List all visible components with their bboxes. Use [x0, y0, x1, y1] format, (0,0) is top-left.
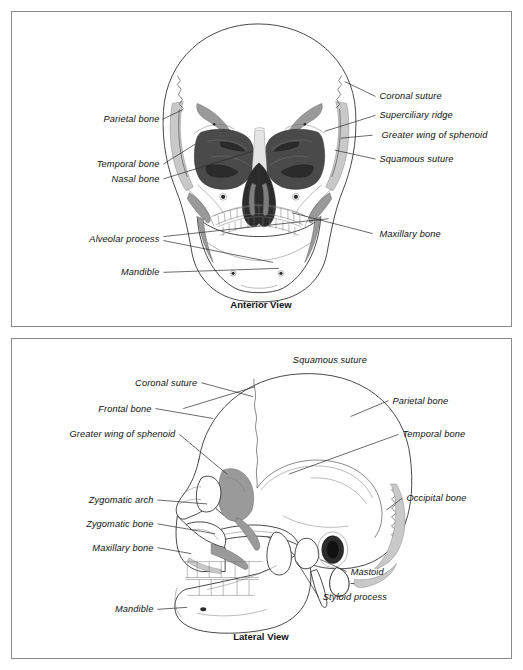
label-nasal-bone: Nasal bone	[112, 174, 160, 184]
anterior-skull-drawing	[163, 24, 356, 302]
label-squamous-suture: Squamous suture	[293, 355, 367, 365]
label-parietal-bone: Parietal bone	[392, 396, 448, 406]
label-mandible: Mandible	[115, 604, 153, 614]
label-zygomatic-bone: Zygomatic bone	[85, 519, 153, 529]
label-mandible: Mandible	[121, 267, 159, 277]
anterior-view-illustration: Parietal bone Temporal bone Nasal bone A…	[12, 12, 511, 326]
caption-lateral-view: Lateral View	[233, 631, 289, 642]
label-greater-wing-of-sphenoid: Greater wing of sphenoid	[382, 130, 489, 140]
label-mastoid: Mastoid	[351, 567, 385, 577]
label-zygomatic-arch: Zygomatic arch	[88, 495, 154, 505]
caption-anterior-view: Anterior View	[230, 299, 292, 310]
label-occipital-bone: Occipital bone	[406, 493, 466, 503]
label-temporal-bone: Temporal bone	[97, 159, 160, 169]
label-alveolar-process: Alveolar process	[88, 234, 159, 244]
label-parietal-bone: Parietal bone	[104, 114, 160, 124]
panel-lateral-view: Squamous suture Coronal suture Frontal b…	[11, 338, 512, 659]
skull-anatomy-figure: Parietal bone Temporal bone Nasal bone A…	[0, 0, 523, 670]
label-superciliary-ridge: Superciliary ridge	[380, 110, 453, 120]
label-frontal-bone: Frontal bone	[98, 404, 151, 414]
label-greater-wing-of-sphenoid: Greater wing of sphenoid	[69, 429, 176, 439]
label-coronal-suture: Coronal suture	[135, 378, 197, 388]
label-squamous-suture: Squamous suture	[380, 154, 454, 164]
label-temporal-bone: Temporal bone	[402, 429, 465, 439]
label-maxillary-bone: Maxillary bone	[380, 229, 441, 239]
panel-anterior-view: Parietal bone Temporal bone Nasal bone A…	[11, 11, 512, 327]
label-maxillary-bone: Maxillary bone	[92, 543, 153, 553]
label-coronal-suture: Coronal suture	[380, 91, 442, 101]
lateral-view-illustration: Squamous suture Coronal suture Frontal b…	[12, 339, 511, 658]
label-styloid-process: Styloid process	[323, 592, 388, 602]
